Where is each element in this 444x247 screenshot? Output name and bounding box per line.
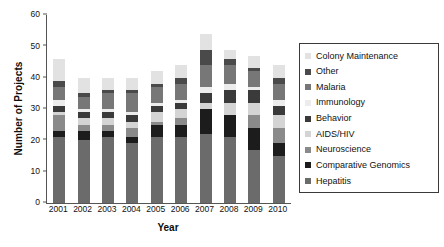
x-axis-tick-label: 2007 xyxy=(192,204,216,214)
bar-segment[interactable] xyxy=(126,78,138,91)
y-axis-tick-label: 30 xyxy=(31,104,40,113)
y-axis-tick: 60 xyxy=(31,14,47,15)
bar-segment[interactable] xyxy=(126,93,138,112)
bar-segment[interactable] xyxy=(224,137,236,203)
legend-item-label: Immunology xyxy=(316,98,365,107)
legend-swatch-icon xyxy=(305,116,311,122)
bar-slot xyxy=(96,15,120,203)
y-axis-tick: 50 xyxy=(31,45,47,46)
bar-segment[interactable] xyxy=(151,112,163,121)
legend-item-label: Malaria xyxy=(316,83,346,92)
bar-segment[interactable] xyxy=(224,65,236,84)
legend-item[interactable]: Immunology xyxy=(305,96,434,110)
bar-segment[interactable] xyxy=(151,125,163,138)
legend-item[interactable]: Hepatitis xyxy=(305,174,434,188)
bar-segment[interactable] xyxy=(248,90,260,103)
bar-segment[interactable] xyxy=(273,106,285,115)
bar-slot xyxy=(47,15,71,203)
bar-segment[interactable] xyxy=(53,87,65,100)
stacked-bar[interactable] xyxy=(102,78,114,203)
y-axis-tick: 10 xyxy=(31,170,47,171)
bar-segment[interactable] xyxy=(151,87,163,103)
bar-segment[interactable] xyxy=(126,128,138,137)
stacked-bar[interactable] xyxy=(248,56,260,203)
bar-segment[interactable] xyxy=(248,115,260,128)
stacked-bar[interactable] xyxy=(126,78,138,203)
bar-segment[interactable] xyxy=(78,131,90,140)
bar-segment[interactable] xyxy=(273,65,285,78)
stacked-bar[interactable] xyxy=(224,49,236,203)
bar-segment[interactable] xyxy=(248,128,260,150)
y-axis-tick-label: 10 xyxy=(31,166,40,175)
bar-slot xyxy=(145,15,169,203)
bar-segment[interactable] xyxy=(200,65,212,87)
y-axis-tick-label: 60 xyxy=(31,10,40,19)
bar-segment[interactable] xyxy=(273,84,285,100)
bar-segment[interactable] xyxy=(126,143,138,203)
bar-segment[interactable] xyxy=(78,78,90,94)
legend-item[interactable]: Colony Maintenance xyxy=(305,49,434,63)
legend-item-label: AIDS/HIV xyxy=(316,130,355,139)
stacked-bar[interactable] xyxy=(78,78,90,203)
bar-segment[interactable] xyxy=(273,115,285,128)
bar-segment[interactable] xyxy=(200,50,212,66)
legend-item[interactable]: Neuroscience xyxy=(305,143,434,157)
bar-segment[interactable] xyxy=(248,150,260,203)
chart-figure: Number of Projects 0102030405060 2001200… xyxy=(0,0,444,247)
x-axis-tick-label: 2004 xyxy=(119,204,143,214)
x-axis-tick-label: 2006 xyxy=(168,204,192,214)
legend-item[interactable]: Other xyxy=(305,65,434,79)
y-axis-tick: 30 xyxy=(31,108,47,109)
legend-item[interactable]: Comparative Genomics xyxy=(305,158,434,172)
x-axis-tick-label: 2002 xyxy=(70,204,94,214)
x-axis-tick-label: 2008 xyxy=(217,204,241,214)
bar-segment[interactable] xyxy=(151,137,163,203)
bar-segment[interactable] xyxy=(102,137,114,203)
stacked-bar[interactable] xyxy=(273,65,285,203)
bar-segment[interactable] xyxy=(224,103,236,116)
bar-segment[interactable] xyxy=(78,97,90,110)
bar-segment[interactable] xyxy=(151,71,163,84)
bar-segment[interactable] xyxy=(53,59,65,81)
y-axis-tick-label: 40 xyxy=(31,72,40,81)
bar-segment[interactable] xyxy=(248,56,260,69)
bar-segment[interactable] xyxy=(224,50,236,59)
bar-segment[interactable] xyxy=(273,143,285,156)
bar-segment[interactable] xyxy=(175,65,187,78)
bar-segment[interactable] xyxy=(175,137,187,203)
bar-slot xyxy=(267,15,291,203)
stacked-bar[interactable] xyxy=(53,59,65,203)
bar-segment[interactable] xyxy=(200,134,212,203)
bar-segment[interactable] xyxy=(200,109,212,134)
x-axis-tick-label: 2001 xyxy=(46,204,70,214)
bar-segment[interactable] xyxy=(53,137,65,203)
bar-segment[interactable] xyxy=(102,93,114,109)
bar-segment[interactable] xyxy=(248,71,260,87)
bar-segment[interactable] xyxy=(175,109,187,118)
bar-segment[interactable] xyxy=(248,103,260,116)
legend-item[interactable]: Behavior xyxy=(305,112,434,126)
bar-slot xyxy=(218,15,242,203)
legend-swatch-icon xyxy=(305,147,311,153)
bar-segment[interactable] xyxy=(200,34,212,50)
stacked-bar[interactable] xyxy=(175,65,187,203)
bar-segment[interactable] xyxy=(224,115,236,137)
bar-segment[interactable] xyxy=(273,128,285,144)
bar-segment[interactable] xyxy=(273,156,285,203)
stacked-bar[interactable] xyxy=(200,34,212,203)
bar-segment[interactable] xyxy=(175,84,187,100)
legend-swatch-icon xyxy=(305,100,311,106)
legend-item[interactable]: Malaria xyxy=(305,80,434,94)
legend-swatch-icon xyxy=(305,162,311,168)
bar-segment[interactable] xyxy=(78,140,90,203)
bar-segment[interactable] xyxy=(102,78,114,91)
y-axis-tick: 20 xyxy=(31,139,47,140)
bar-segment[interactable] xyxy=(200,93,212,102)
legend-item-label: Other xyxy=(316,67,339,76)
bar-segment[interactable] xyxy=(175,125,187,138)
bar-segment[interactable] xyxy=(224,90,236,103)
legend-swatch-icon xyxy=(305,131,311,137)
legend-item[interactable]: AIDS/HIV xyxy=(305,127,434,141)
bar-segment[interactable] xyxy=(53,115,65,131)
stacked-bar[interactable] xyxy=(151,71,163,203)
